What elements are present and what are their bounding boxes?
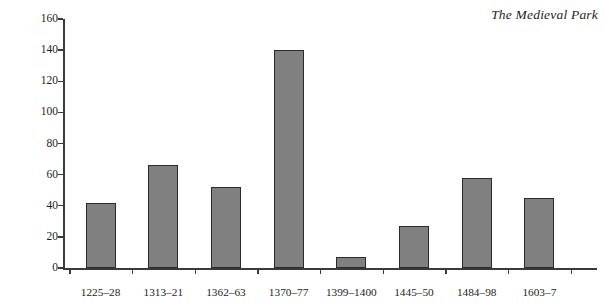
x-tick — [69, 268, 70, 274]
bar — [211, 187, 241, 268]
x-tick — [257, 268, 258, 274]
y-tick — [58, 18, 63, 19]
x-tick — [132, 268, 133, 274]
x-tick — [195, 268, 196, 274]
y-tick — [58, 49, 63, 50]
y-tick — [58, 174, 63, 175]
x-tick-label: 1362–63 — [206, 285, 246, 299]
x-tick — [383, 268, 384, 274]
bar — [524, 198, 554, 268]
bar — [399, 226, 429, 268]
y-tick-label: 20 — [47, 229, 59, 244]
x-tick — [320, 268, 321, 274]
x-tick-label: 1445–50 — [394, 285, 434, 299]
y-tick-label: 120 — [41, 73, 58, 88]
x-tick-label: 1225–28 — [81, 285, 121, 299]
bar — [148, 165, 178, 268]
x-tick-label: 1484–98 — [457, 285, 497, 299]
y-tick-label: 40 — [47, 198, 59, 213]
y-tick — [58, 143, 63, 144]
y-tick — [58, 236, 63, 237]
x-tick-label: 1399–1400 — [326, 285, 377, 299]
bar — [86, 203, 116, 268]
y-tick-label: 80 — [47, 136, 59, 151]
y-tick — [58, 81, 63, 82]
y-tick-label: 160 — [41, 11, 58, 26]
x-tick-label: 1370–77 — [269, 285, 309, 299]
y-tick-label: 140 — [41, 42, 58, 57]
y-tick-label: 0 — [52, 260, 58, 275]
x-tick-label: 1313–21 — [144, 285, 184, 299]
y-tick-label: 60 — [47, 167, 59, 182]
y-tick — [58, 267, 63, 268]
x-tick — [445, 268, 446, 274]
bar — [336, 257, 366, 268]
bar — [462, 178, 492, 268]
y-tick — [58, 205, 63, 206]
y-tick-label: 100 — [41, 104, 58, 119]
bar — [274, 50, 304, 268]
x-tick-label: 1603–7 — [522, 285, 556, 299]
x-tick — [571, 268, 572, 274]
bar-chart-figure: The Medieval Park 020406080100120140160 … — [0, 0, 606, 306]
plot-area: 020406080100120140160 1225–281313–211362… — [63, 19, 597, 268]
x-tick — [508, 268, 509, 274]
x-axis-line — [63, 268, 597, 270]
y-tick — [58, 112, 63, 113]
y-axis-line — [63, 19, 65, 268]
